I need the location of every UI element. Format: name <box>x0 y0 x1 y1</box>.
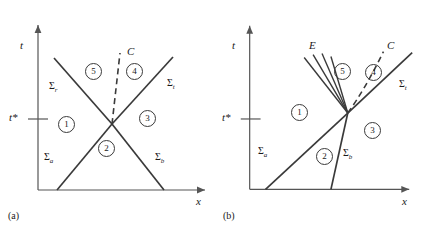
region-4-a: 4 <box>126 63 143 80</box>
sigma-a-label-a: Σa <box>44 152 53 165</box>
contact-label-a: C <box>127 46 134 57</box>
panel-caption-b: (b) <box>223 211 235 221</box>
x-axis-label-a: x <box>196 196 201 207</box>
t-axis-label-b: t <box>232 40 235 51</box>
contact-curve-b <box>348 52 384 113</box>
region-1-b: 1 <box>291 104 308 121</box>
sigma-b-label-b: Σb <box>343 148 352 161</box>
t-axis-arrow-b <box>246 26 253 34</box>
sigma-a-curve-a <box>57 124 112 190</box>
region-3-b: 3 <box>364 122 381 139</box>
contact-curve-a <box>112 53 120 124</box>
panel-b-drawing <box>215 0 433 233</box>
sigma-t-label-b: Σt <box>399 79 407 92</box>
region-5-b: 5 <box>334 63 351 80</box>
x-axis-arrow-a <box>197 187 205 194</box>
t-star-label-b: t* <box>222 112 231 123</box>
x-axis-label-b: x <box>402 196 407 207</box>
x-axis-arrow-b <box>401 186 409 193</box>
sigma-r-label-a: Σr <box>49 81 58 94</box>
panel-a-drawing <box>0 0 218 233</box>
region-3-a: 3 <box>139 110 156 127</box>
t-axis-arrow-a <box>35 25 42 33</box>
sigma-b-label-a: Σb <box>155 152 164 165</box>
sigma-r-curve-a <box>54 58 112 124</box>
rarefaction-label-b: E <box>309 40 316 51</box>
region-1-a: 1 <box>58 116 75 133</box>
t-axis-label-a: t <box>20 40 23 51</box>
region-2-b: 2 <box>316 148 333 165</box>
sigma-a-label-b: Σa <box>258 146 267 159</box>
figure-container: t x t* Σr Σt Σa Σb C 1 2 3 4 5 (a) <box>0 0 435 233</box>
t-star-label-a: t* <box>9 112 18 123</box>
panel-caption-a: (a) <box>8 211 19 221</box>
sigma-t-label-a: Σt <box>167 78 175 91</box>
panel-b: t x t* E C Σt Σa Σb 1 2 3 4 5 (b) <box>215 0 433 233</box>
region-5-a: 5 <box>85 63 102 80</box>
region-4-b: 4 <box>365 64 382 81</box>
sigma-a-curve-b <box>266 113 348 189</box>
panel-a: t x t* Σr Σt Σa Σb C 1 2 3 4 5 (a) <box>0 0 218 233</box>
contact-label-b: C <box>387 40 394 51</box>
region-2-a: 2 <box>98 140 115 157</box>
